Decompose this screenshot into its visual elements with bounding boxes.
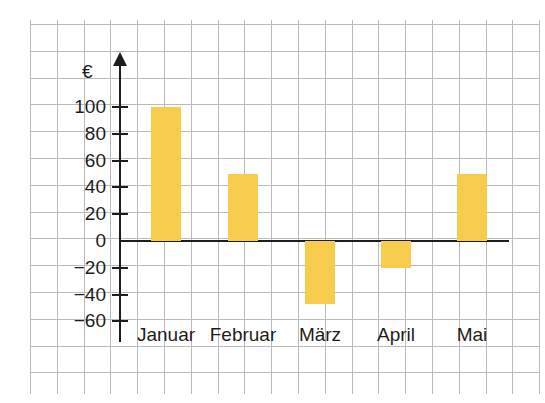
bar-januar (151, 107, 181, 241)
bar-februar (228, 174, 258, 241)
bar-mai (457, 174, 487, 241)
bar-chart-figure: € 100806040200−20−40−60 JanuarFebruarMär… (0, 0, 545, 403)
y-axis-tick-label-text: 60 (46, 151, 106, 170)
y-axis-tick-label-text: −40 (46, 285, 106, 304)
y-axis-unit-label: € (82, 62, 93, 81)
y-axis-line (119, 62, 121, 342)
category-label-mai: Mai (457, 325, 488, 344)
y-axis-tick (112, 106, 128, 108)
y-axis-tick (112, 133, 128, 135)
y-axis-tick-label-text: 80 (46, 124, 106, 143)
y-axis-tick (112, 213, 128, 215)
category-label-februar: Februar (210, 325, 277, 344)
category-label-januar: Januar (137, 325, 195, 344)
plot-area: € 100806040200−20−40−60 JanuarFebruarMär… (0, 0, 545, 403)
y-axis-tick (112, 160, 128, 162)
y-axis-tick-label-text: 20 (46, 204, 106, 223)
y-axis-tick (112, 186, 128, 188)
y-axis-tick-label-text: −60 (46, 311, 106, 330)
y-axis-tick-label-text: 40 (46, 177, 106, 196)
category-label-märz: März (299, 325, 341, 344)
y-axis-tick (112, 267, 128, 269)
y-axis-tick (112, 320, 128, 322)
y-axis-tick (112, 294, 128, 296)
bar-märz (305, 241, 335, 304)
category-label-april: April (377, 325, 415, 344)
y-axis-tick-label-text: 100 (46, 97, 106, 116)
y-axis-tick-label-text: 0 (46, 231, 106, 250)
bar-april (381, 241, 411, 268)
y-axis-tick-label-text: −20 (46, 258, 106, 277)
